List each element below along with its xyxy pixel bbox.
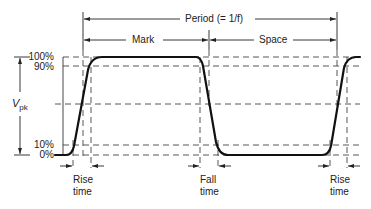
caption-line: time [330, 186, 350, 198]
caption-line: Rise [73, 174, 93, 186]
level-label-90: 90% [34, 61, 54, 72]
vpk-label-sub: pk [19, 103, 27, 112]
caption-line: time [73, 186, 93, 198]
fall-time-caption: Fall time [200, 174, 219, 198]
level-guides [55, 57, 360, 155]
waveform-trace [55, 57, 360, 155]
rise-time-caption-1: Rise time [73, 174, 93, 198]
vpk-label: Vpk [12, 98, 28, 113]
caption-line: time [200, 186, 219, 198]
period-label: Period (= 1/f) [183, 13, 245, 24]
caption-line: Rise [330, 174, 350, 186]
caption-line: Fall [200, 174, 219, 186]
space-label: Space [257, 34, 289, 45]
rise-time-caption-2: Rise time [330, 174, 350, 198]
pulse-waveform-diagram [0, 0, 371, 209]
mark-label: Mark [130, 34, 156, 45]
level-label-0: 0% [40, 149, 54, 160]
